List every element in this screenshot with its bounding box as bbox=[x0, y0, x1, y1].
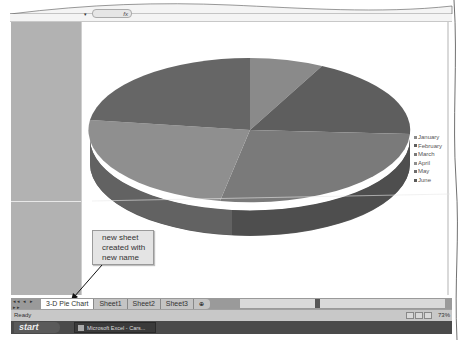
normal-view-icon[interactable] bbox=[406, 312, 414, 319]
insert-worksheet-icon[interactable]: ⊕ bbox=[194, 299, 210, 309]
fx-icon: fx bbox=[123, 11, 128, 17]
callout-arrow-icon bbox=[70, 264, 105, 302]
legend-item-january: January bbox=[414, 133, 442, 142]
legend-item-march: March bbox=[414, 150, 442, 159]
legend-swatch-icon bbox=[414, 136, 417, 139]
page-break-preview-icon[interactable] bbox=[424, 312, 432, 319]
sheet-nav-arrows[interactable]: ◂◂ ◂ ▸ ▸▸ bbox=[11, 298, 41, 310]
taskbar-item-excel[interactable]: Microsoft Excel - Cars... bbox=[74, 322, 156, 333]
legend-item-april: April bbox=[414, 159, 442, 168]
start-button[interactable]: start bbox=[14, 322, 60, 333]
gridline bbox=[11, 201, 81, 202]
tab-sheet3[interactable]: Sheet3 bbox=[161, 299, 194, 309]
torn-page-right-edge bbox=[452, 0, 462, 340]
tab-3d-pie-chart[interactable]: 3-D Pie Chart bbox=[41, 299, 94, 309]
windows-taskbar: start Microsoft Excel - Cars... bbox=[11, 321, 452, 334]
status-text: Ready bbox=[14, 312, 31, 318]
status-bar: Ready 73% bbox=[11, 309, 452, 321]
legend-swatch-icon bbox=[414, 162, 417, 165]
callout-box: new sheet created with new name bbox=[92, 230, 154, 265]
tab-sheet1[interactable]: Sheet1 bbox=[94, 299, 127, 309]
legend-swatch-icon bbox=[414, 179, 417, 182]
page-layout-view-icon[interactable] bbox=[415, 312, 423, 319]
horizontal-scrollbar[interactable] bbox=[240, 299, 445, 308]
legend-item-may: May bbox=[414, 167, 442, 176]
excel-icon bbox=[78, 325, 84, 331]
insert-function-button[interactable]: fx bbox=[92, 9, 132, 18]
legend-swatch-icon bbox=[414, 170, 417, 173]
zoom-level[interactable]: 73% bbox=[438, 312, 450, 318]
name-box-dropdown[interactable]: ▾ bbox=[84, 11, 90, 17]
tab-sheet2[interactable]: Sheet2 bbox=[128, 299, 161, 309]
slice-may-june bbox=[90, 58, 250, 130]
legend-swatch-icon bbox=[414, 153, 417, 156]
scrollbar-thumb[interactable] bbox=[315, 299, 320, 308]
worksheet-background bbox=[11, 22, 81, 295]
chart-legend[interactable]: January February March April May June bbox=[414, 133, 442, 185]
legend-item-february: February bbox=[414, 142, 442, 151]
formula-bar bbox=[10, 14, 452, 22]
view-buttons bbox=[406, 312, 432, 319]
legend-item-june: June bbox=[414, 176, 442, 185]
legend-swatch-icon bbox=[414, 144, 417, 147]
